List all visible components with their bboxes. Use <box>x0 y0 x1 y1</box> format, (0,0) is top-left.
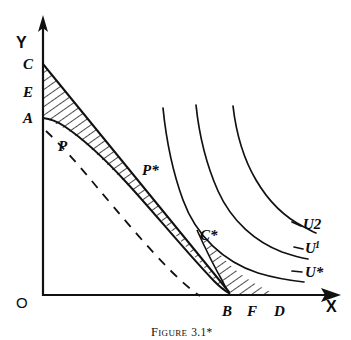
leader-dash-u-star <box>292 271 302 272</box>
curve-label-u2: U2 <box>303 216 322 232</box>
hatched-area-CAP <box>43 64 229 293</box>
curve-label-u1-group: U 1 <box>305 239 320 257</box>
indifference-curve-u-two <box>233 106 316 233</box>
figure-caption-prefix: Figure <box>151 325 187 339</box>
point-label-a: A <box>22 110 33 126</box>
point-label-c: C <box>23 56 34 72</box>
x-axis <box>43 288 341 302</box>
point-label-c-star: C* <box>200 227 218 243</box>
y-axis <box>38 15 48 296</box>
dashed-frontier-curve <box>46 131 200 296</box>
figure-caption: Figure3.1* <box>0 313 351 340</box>
origin-label: O <box>16 294 28 311</box>
indifference-curve-u-star <box>163 108 304 282</box>
curve-label-u1-superscript: 1 <box>315 239 320 250</box>
curve-label-u-star: U* <box>305 264 324 280</box>
leader-dash-u1 <box>294 247 303 249</box>
y-axis-label: Y <box>16 34 27 51</box>
figure-caption-number: 3.1* <box>191 326 212 338</box>
point-label-p-star: P* <box>142 162 159 178</box>
point-label-p: P <box>58 138 68 154</box>
point-label-e: E <box>22 84 33 100</box>
